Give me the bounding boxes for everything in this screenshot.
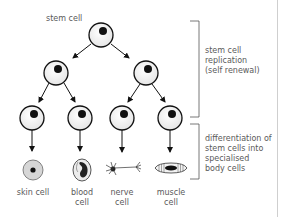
stem-cell-level3-3 bbox=[110, 106, 134, 130]
replication-label-line: replication bbox=[205, 56, 260, 66]
blood-cell-label-line: cell bbox=[62, 198, 102, 208]
differentiation-label: differentiation of stem cells into speci… bbox=[205, 134, 272, 174]
stem-cell-level2-left bbox=[44, 61, 68, 85]
stem-cell-label: stem cell bbox=[46, 14, 82, 24]
skin-cell-label-line: skin cell bbox=[13, 188, 53, 198]
differentiation-label-line: stem cells into bbox=[205, 144, 272, 154]
blood-cell-label-line: blood bbox=[62, 188, 102, 198]
stem-cell-diagram bbox=[0, 0, 281, 217]
muscle-cell-label: muscle cell bbox=[151, 188, 191, 208]
muscle-cell-icon bbox=[155, 163, 187, 173]
differentiation-label-line: specialised bbox=[205, 154, 272, 164]
stem-cell-level1 bbox=[89, 23, 113, 47]
skin-cell-icon bbox=[23, 160, 43, 180]
stem-cell-level3-4 bbox=[158, 106, 182, 130]
stem-cell-level3-1 bbox=[20, 106, 44, 130]
stem-cell-level3-2 bbox=[68, 106, 92, 130]
bracket-replication bbox=[190, 21, 199, 117]
differentiation-label-line: differentiation of bbox=[205, 134, 272, 144]
blood-cell-icon bbox=[73, 159, 91, 181]
replication-label-line: stem cell bbox=[205, 46, 260, 56]
stem-cell-level2-right bbox=[134, 61, 158, 85]
nerve-cell-label-line: cell bbox=[102, 198, 142, 208]
nerve-cell-icon bbox=[106, 162, 141, 175]
muscle-cell-label-line: muscle bbox=[151, 188, 191, 198]
nerve-cell-label: nerve cell bbox=[102, 188, 142, 208]
replication-label: stem cell replication (self renewal) bbox=[205, 46, 260, 76]
replication-label-line: (self renewal) bbox=[205, 66, 260, 76]
blood-cell-label: blood cell bbox=[62, 188, 102, 208]
muscle-cell-label-line: cell bbox=[151, 198, 191, 208]
differentiation-label-line: body cells bbox=[205, 164, 272, 174]
bracket-differentiation bbox=[190, 124, 199, 179]
nerve-cell-label-line: nerve bbox=[102, 188, 142, 198]
skin-cell-label: skin cell bbox=[13, 188, 53, 198]
